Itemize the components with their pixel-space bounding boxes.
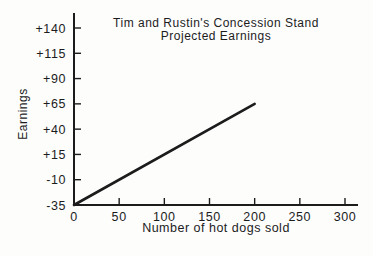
y-tick-label: +65 (43, 97, 66, 111)
y-tick-label: +115 (36, 47, 66, 61)
y-tick-label: -35 (46, 199, 66, 213)
y-tick-label: +15 (43, 148, 66, 162)
y-axis-label: Earnings (16, 69, 30, 159)
x-axis-label: Number of hot dogs sold (74, 221, 358, 235)
chart-title-line2: Projected Earnings (74, 30, 358, 43)
chart-figure: +140+115+90+65+40+15-10-3505010015020025… (0, 0, 373, 256)
series-line-projected-earnings (74, 104, 255, 205)
y-tick-label: +90 (43, 72, 66, 86)
chart-title: Tim and Rustin's Concession Stand Projec… (74, 17, 358, 42)
y-tick-label: +140 (35, 22, 66, 36)
y-tick-label: +40 (43, 123, 66, 137)
y-tick-label: -10 (46, 173, 66, 187)
chart-title-line1: Tim and Rustin's Concession Stand (74, 17, 358, 30)
